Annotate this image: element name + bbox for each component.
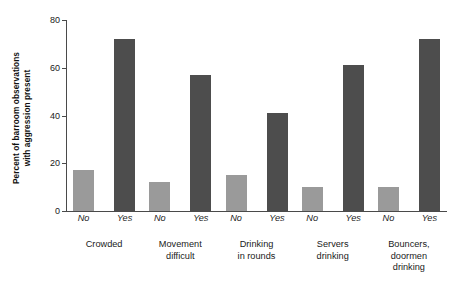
x-group-label-line: drinking (388, 262, 429, 274)
y-axis-title-line-1: Percent of barroom observations (11, 51, 22, 183)
bar-chart: Percent of barroom observations with agg… (0, 0, 456, 292)
y-tick (62, 68, 66, 69)
bar-1-yes (114, 39, 135, 211)
x-sublabel-1-yes: Yes (117, 213, 132, 223)
bar-3-yes (267, 113, 288, 211)
x-axis-labels: NoYesCrowdedNoYesMovementdifficultNoYesD… (66, 213, 447, 289)
x-group-label-line: in rounds (238, 251, 276, 263)
x-group-label-line: Bouncers, (388, 239, 429, 251)
x-group-label-5: Bouncers,doormendrinking (388, 239, 429, 274)
bar-3-no (226, 175, 247, 211)
x-sublabel-1-no: No (78, 213, 90, 223)
x-group-label-line: Crowded (86, 239, 123, 251)
bar-5-yes (419, 39, 440, 211)
x-sublabel-2-no: No (154, 213, 166, 223)
y-tick-label: 20 (50, 158, 60, 168)
bar-1-no (73, 170, 94, 211)
x-group-label-line: Movement (159, 239, 202, 251)
x-group-label-1: Crowded (86, 239, 123, 251)
y-axis-title: Percent of barroom observations with agg… (4, 20, 40, 215)
x-sublabel-2-yes: Yes (193, 213, 208, 223)
x-group-label-line: Drinking (238, 239, 276, 251)
x-group-label-4: Serversdrinking (317, 239, 349, 262)
x-group-label-2: Movementdifficult (159, 239, 202, 262)
y-tick (62, 211, 66, 212)
x-sublabel-3-yes: Yes (269, 213, 284, 223)
y-tick (62, 116, 66, 117)
x-group-label-3: Drinkingin rounds (238, 239, 276, 262)
bar-4-no (302, 187, 323, 211)
x-axis-line (66, 211, 447, 212)
x-sublabel-5-yes: Yes (422, 213, 437, 223)
x-sublabel-3-no: No (230, 213, 242, 223)
bar-5-no (378, 187, 399, 211)
plot-area: 020406080 (66, 20, 447, 211)
y-tick-label: 80 (50, 15, 60, 25)
x-sublabel-4-no: No (306, 213, 318, 223)
x-group-label-line: Servers (317, 239, 349, 251)
y-tick (62, 20, 66, 21)
y-axis-title-line-2: with aggression present (22, 51, 33, 183)
y-tick (62, 163, 66, 164)
y-tick-label: 40 (50, 111, 60, 121)
bar-2-yes (190, 75, 211, 211)
x-sublabel-5-no: No (383, 213, 395, 223)
y-axis-line (66, 20, 67, 212)
bar-4-yes (343, 65, 364, 211)
x-group-label-line: doormen (388, 251, 429, 263)
x-group-label-line: difficult (159, 251, 202, 263)
x-group-label-line: drinking (317, 251, 349, 263)
x-sublabel-4-yes: Yes (346, 213, 361, 223)
y-tick-label: 60 (50, 63, 60, 73)
bar-2-no (149, 182, 170, 211)
y-tick-label: 0 (55, 206, 60, 216)
